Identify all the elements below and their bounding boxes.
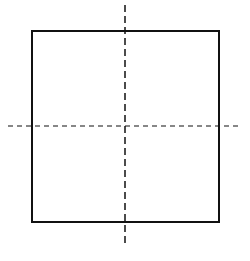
square-diagram [0,0,250,261]
